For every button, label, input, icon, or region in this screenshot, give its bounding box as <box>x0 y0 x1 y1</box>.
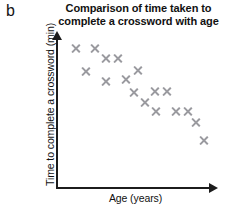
scatter-points-layer <box>0 0 225 205</box>
scatter-point <box>81 66 92 77</box>
scatter-point <box>101 53 112 64</box>
scatter-point <box>162 86 173 97</box>
scatter-point <box>113 53 124 64</box>
chart-title: Comparison of time taken to complete a c… <box>52 2 225 27</box>
scatter-point <box>150 86 161 97</box>
chart-title-line-1: Comparison of time taken to <box>52 2 225 15</box>
scatter-point <box>129 87 140 98</box>
y-axis-label: Time to complete a crossword (min) <box>44 0 58 48</box>
scatter-point <box>151 106 162 117</box>
chart-title-line-2: complete a crossword with age <box>52 15 225 28</box>
scatter-point <box>71 43 82 54</box>
y-axis-line <box>56 38 58 189</box>
x-axis-line <box>56 187 213 189</box>
scatter-point <box>199 135 210 146</box>
scatter-point <box>90 43 101 54</box>
scatter-point <box>191 117 202 128</box>
figure-panel: b Comparison of time taken to complete a… <box>0 0 225 205</box>
scatter-point <box>133 65 144 76</box>
scatter-point <box>171 106 182 117</box>
scatter-point <box>121 74 132 85</box>
figure-letter-label: b <box>6 3 15 19</box>
scatter-point <box>101 76 112 87</box>
scatter-point <box>140 97 151 108</box>
x-axis-label: Age (years) <box>57 192 214 204</box>
y-axis-label-text: Time to complete a crossword (min) <box>44 50 56 186</box>
scatter-point <box>183 106 194 117</box>
